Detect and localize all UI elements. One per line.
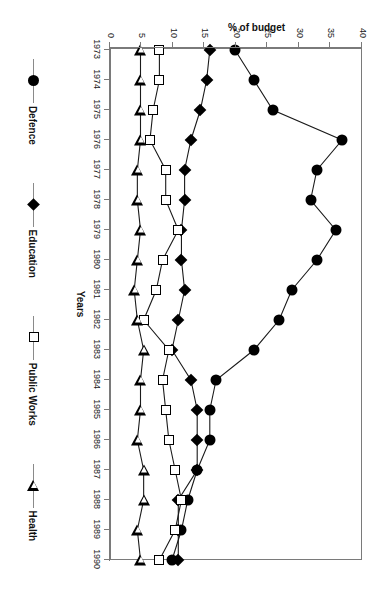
data-point <box>176 255 187 266</box>
marker-open-triangle <box>131 165 143 176</box>
data-point <box>248 75 259 86</box>
x-tick-label: 1979 <box>92 212 102 246</box>
x-tick <box>104 469 109 470</box>
legend-entry-defence[interactable]: Defence <box>26 59 40 145</box>
x-tick-label: 1984 <box>92 362 102 396</box>
marker-open-triangle <box>131 315 143 326</box>
legend-label: Defence <box>28 106 39 145</box>
x-tick <box>104 439 109 440</box>
x-tick-label: 1986 <box>92 422 102 456</box>
data-point <box>154 75 164 85</box>
y-tick-label: 0 <box>106 12 116 38</box>
x-tick <box>104 49 109 50</box>
legend-entry-public-works[interactable]: Public Works <box>26 316 40 426</box>
legend-label: Education <box>28 230 39 278</box>
data-point <box>161 195 171 205</box>
data-point <box>138 495 150 506</box>
legend-swatch <box>26 464 40 508</box>
marker-open-square <box>154 555 164 565</box>
y-tick-label: 5 <box>138 12 148 38</box>
marker-open-triangle <box>131 435 143 446</box>
legend-entry-health[interactable]: Health <box>26 464 40 542</box>
legend-marker <box>29 332 39 342</box>
marker-filled-diamond <box>191 464 204 477</box>
data-point <box>131 255 143 266</box>
marker-open-triangle <box>135 225 147 236</box>
y-tick <box>298 42 299 47</box>
marker-open-square <box>158 255 168 265</box>
marker-filled-circle <box>204 405 215 416</box>
x-tick <box>104 499 109 500</box>
data-point <box>135 375 147 386</box>
legend-marker <box>28 199 39 210</box>
marker-open-triangle <box>138 345 150 356</box>
data-point <box>151 285 161 295</box>
marker-open-square <box>164 435 174 445</box>
marker-open-triangle <box>131 195 143 206</box>
data-point <box>135 555 147 566</box>
marker-open-triangle <box>138 465 150 476</box>
marker-filled-diamond <box>194 104 207 117</box>
data-point <box>192 405 203 416</box>
marker-open-square <box>176 495 186 505</box>
y-tick <box>267 42 268 47</box>
legend-entry-education[interactable]: Education <box>26 183 40 278</box>
marker-open-triangle <box>135 375 147 386</box>
data-point <box>131 525 143 536</box>
data-point <box>135 135 147 146</box>
data-point <box>161 405 171 415</box>
x-tick <box>104 79 109 80</box>
data-point <box>164 435 174 445</box>
y-tick <box>141 42 142 47</box>
marker-filled-diamond <box>27 198 40 211</box>
data-point <box>192 435 203 446</box>
marker-filled-circle <box>311 165 322 176</box>
data-point <box>131 435 143 446</box>
data-point <box>138 345 150 356</box>
marker-filled-circle <box>248 75 259 86</box>
marker-filled-diamond <box>191 404 204 417</box>
x-tick <box>104 229 109 230</box>
data-point <box>161 165 171 175</box>
legend-swatch <box>26 183 40 227</box>
x-tick <box>104 349 109 350</box>
data-point <box>274 315 285 326</box>
x-tick-label: 1987 <box>92 452 102 486</box>
plot-area <box>110 48 362 560</box>
chart-figure: 1973197419751976197719781979198019811982… <box>0 0 372 592</box>
x-tick-label: 1982 <box>92 302 102 336</box>
data-point <box>148 105 158 115</box>
y-tick <box>172 42 173 47</box>
marker-open-triangle <box>131 525 143 536</box>
marker-filled-circle <box>248 345 259 356</box>
marker-open-square <box>154 75 164 85</box>
y-tick-label: 10 <box>169 12 179 38</box>
data-point <box>185 135 196 146</box>
marker-open-square <box>170 465 180 475</box>
marker-filled-circle <box>211 375 222 386</box>
legend-label: Public Works <box>28 363 39 426</box>
y-tick <box>109 42 110 47</box>
series-line-defence <box>172 50 342 560</box>
data-point <box>138 465 150 476</box>
x-tick-label: 1989 <box>92 512 102 546</box>
marker-open-triangle <box>128 285 140 296</box>
data-point <box>195 105 206 116</box>
chart-legend: DefenceEducationPublic WorksHealth <box>16 40 50 560</box>
x-tick-label: 1981 <box>92 272 102 306</box>
data-point <box>204 435 215 446</box>
data-point <box>311 165 322 176</box>
data-point <box>170 465 180 475</box>
marker-open-triangle <box>27 480 39 491</box>
marker-filled-diamond <box>203 44 216 57</box>
marker-filled-circle <box>267 105 278 116</box>
series-lines <box>109 49 361 561</box>
x-tick-label: 1990 <box>92 542 102 576</box>
data-point <box>135 405 147 416</box>
data-point <box>158 255 168 265</box>
data-point <box>179 195 190 206</box>
marker-filled-circle <box>305 195 316 206</box>
marker-filled-diamond <box>191 434 204 447</box>
marker-open-square <box>173 225 183 235</box>
x-tick <box>104 109 109 110</box>
